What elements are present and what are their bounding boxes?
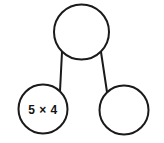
- whole-circle[interactable]: [54, 5, 109, 60]
- number-bond-canvas: 5 × 4: [0, 0, 164, 143]
- part-right-circle[interactable]: [100, 86, 149, 135]
- connector-whole-to-right-part: [101, 52, 107, 92]
- connector-whole-to-left-part: [60, 52, 62, 91]
- number-bond-diagram: 5 × 4: [0, 0, 164, 143]
- part-left-circle-label: 5 × 4: [28, 103, 58, 117]
